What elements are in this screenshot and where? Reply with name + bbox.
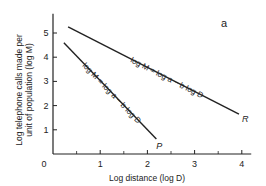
y-axis-title-line2: unit of population (log M) [24,43,34,137]
chart: 123412345 0 Log distance (log D) Log tel… [0,0,266,186]
x-tick-label: 1 [98,159,103,169]
series-p-end-label: P [156,141,162,151]
panel-label: a [221,17,228,29]
y-tick-label: 2 [43,101,48,111]
ticks: 123412345 [43,28,244,169]
y-tick-label: 5 [43,28,48,38]
y-tick-label: 1 [43,125,48,135]
x-tick-label: 4 [239,159,244,169]
x-tick-label: 3 [192,159,197,169]
series-group [64,27,239,139]
y-tick-label: 3 [43,76,48,86]
x-tick-label: 2 [145,159,150,169]
series-r-end-label: R [242,114,249,124]
origin-label: 0 [41,159,46,169]
y-axis-title-line1: Log telephone calls made per [14,34,24,146]
series-p-equation: log M = log a − b log D [80,61,142,125]
y-tick-label: 4 [43,52,48,62]
series-r-equation: log M = log a − b log D [129,56,205,101]
x-axis-title: Log distance (log D) [109,173,185,183]
